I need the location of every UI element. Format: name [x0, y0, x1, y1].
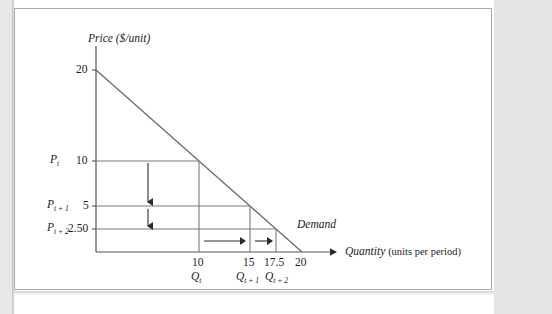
price-symbol-pt-base: P: [50, 153, 57, 165]
quantity-symbol-qt1: Qt + 1: [236, 271, 259, 285]
price-symbol-pt2: Pt + 2: [47, 222, 69, 236]
y-tick-label-10: 10: [76, 155, 88, 167]
quantity-symbol-qt2-sub: t + 2: [273, 276, 288, 285]
y-tick-label-5: 5: [83, 200, 89, 212]
quantity-symbol-qt2: Qt + 2: [265, 271, 288, 285]
x-axis-title: Quantity (units per period): [345, 246, 461, 258]
x-axis-title-units: (units per period): [388, 246, 461, 257]
demand-curve-label: Demand: [297, 219, 336, 231]
quantity-symbol-qt1-sub: t + 1: [244, 276, 259, 285]
y-tick-label-250: 2.50: [68, 223, 88, 235]
x-axis-title-italic: Quantity: [345, 245, 385, 257]
price-symbol-pt1-sub: t + 1: [54, 204, 69, 213]
x-tick-label-175: 17.5: [264, 257, 284, 269]
quantity-symbol-qt-sub: t: [199, 276, 201, 285]
price-symbol-pt-sub: t: [57, 159, 59, 168]
x-tick-label-10: 10: [192, 257, 204, 269]
y-axis-title: Price ($/unit): [88, 33, 150, 45]
price-symbol-pt2-sub: t + 2: [54, 227, 69, 236]
x-tick-label-15: 15: [243, 257, 255, 269]
price-symbol-pt2-base: P: [47, 221, 54, 233]
x-tick-label-20: 20: [295, 257, 307, 269]
quantity-symbol-qt: Qt: [191, 271, 201, 285]
price-symbol-pt1-base: P: [47, 198, 54, 210]
figure-page: Price ($/unit) Quantity (units per perio…: [0, 0, 552, 314]
price-symbol-pt: Pt: [50, 154, 59, 168]
y-tick-label-20: 20: [76, 64, 88, 76]
price-symbol-pt1: Pt + 1: [47, 199, 69, 213]
